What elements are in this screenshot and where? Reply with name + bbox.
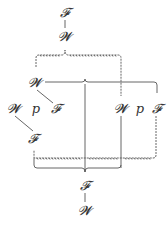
node-top-W: 𝓦 xyxy=(58,29,75,44)
node-row-left-p: p xyxy=(32,101,41,116)
node-low-F: 𝓕 xyxy=(28,131,42,146)
proof-diagram: 𝓕 𝓦 𝓦 𝓦 p 𝓕 𝓦 p 𝓕 𝓕 𝓕 𝓦 xyxy=(0,0,167,229)
node-row-right-W: 𝓦 xyxy=(114,101,131,116)
node-top-F: 𝓕 xyxy=(60,5,74,20)
mid-bracket xyxy=(45,79,157,93)
node-row-right-p: p xyxy=(136,101,145,116)
node-bottom-W: 𝓦 xyxy=(78,203,95,218)
node-mid-W: 𝓦 xyxy=(28,75,45,90)
diag-rowW-lowF xyxy=(15,116,33,131)
upper-wavy-bracket-ticks xyxy=(40,55,116,57)
node-bottom-F: 𝓕 xyxy=(80,178,94,193)
node-row-right-F: 𝓕 xyxy=(152,101,166,116)
node-row-left-W: 𝓦 xyxy=(7,101,24,116)
lower-bracket xyxy=(34,158,121,172)
node-row-left-F: 𝓕 xyxy=(51,101,65,116)
lower-wavy-line xyxy=(34,116,156,158)
upper-wavy-bracket xyxy=(36,50,121,96)
